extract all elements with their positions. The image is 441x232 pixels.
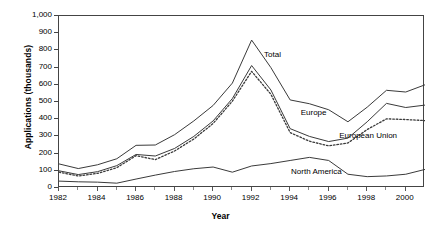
x-tick-label: 2000 — [385, 193, 425, 202]
x-tick-label: 1998 — [346, 193, 386, 202]
x-tick-mark — [251, 187, 252, 191]
x-tick-label: 1984 — [77, 193, 117, 202]
x-tick-mark — [405, 187, 406, 191]
x-tick-label: 1996 — [308, 193, 348, 202]
x-tick-label: 1982 — [38, 193, 78, 202]
x-tick-mark-minor — [116, 187, 117, 190]
x-tick-mark — [366, 187, 367, 191]
x-tick-mark-minor — [308, 187, 309, 190]
x-tick-mark — [174, 187, 175, 191]
x-tick-label: 1986 — [115, 193, 155, 202]
x-tick-mark — [58, 187, 59, 191]
x-tick-mark-minor — [193, 187, 194, 190]
x-axis-ticks: 1982198419861988199019921994199619982000 — [0, 0, 441, 232]
x-tick-mark — [328, 187, 329, 191]
x-tick-mark-minor — [231, 187, 232, 190]
chart-figure: Applications (thousands) 010020030040050… — [0, 0, 441, 232]
x-tick-mark — [289, 187, 290, 191]
x-tick-mark-minor — [77, 187, 78, 190]
x-tick-mark — [97, 187, 98, 191]
x-axis-title: Year — [0, 211, 441, 221]
x-tick-mark — [135, 187, 136, 191]
x-tick-label: 1990 — [192, 193, 232, 202]
x-tick-mark-minor — [154, 187, 155, 190]
x-tick-label: 1988 — [154, 193, 194, 202]
x-tick-mark-minor — [385, 187, 386, 190]
x-tick-mark-minor — [347, 187, 348, 190]
x-tick-label: 1994 — [269, 193, 309, 202]
x-tick-mark-minor — [270, 187, 271, 190]
x-tick-mark — [212, 187, 213, 191]
x-tick-label: 1992 — [231, 193, 271, 202]
